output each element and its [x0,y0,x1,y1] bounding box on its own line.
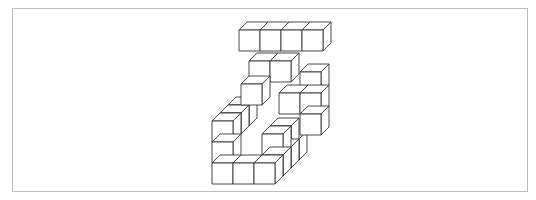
cube-front-face [302,30,323,51]
cube [302,22,331,51]
cube-front-face [212,163,233,184]
cube-front-face [279,93,300,114]
cube-front-face [241,84,262,105]
cube [254,155,283,184]
cube-front-face [239,30,260,51]
cube-front-face [254,163,275,184]
cube [300,106,329,135]
cube [270,53,299,82]
cube-front-face [300,114,321,135]
cube-front-face [270,61,291,82]
cube-front-face [281,30,302,51]
cube-front-face [260,30,281,51]
cube-front-face [233,163,254,184]
cube-structure-diagram [0,0,536,200]
cube [241,76,270,105]
